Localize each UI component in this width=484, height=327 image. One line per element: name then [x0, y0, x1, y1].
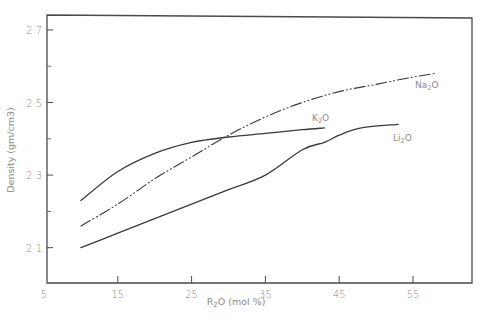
series-labels: K2ONa2OLi2O: [312, 80, 438, 145]
plot-frame: [47, 15, 472, 283]
x-tick-label: 55: [407, 289, 420, 300]
y-tick-label: 2·7: [26, 25, 42, 36]
series-label-na2o: Na2O: [415, 80, 438, 92]
y-axis-ticks: 2·12·32·52·7: [26, 25, 53, 254]
density-chart: 2·12·32·52·7 51525354555 K2ONa2OLi2O R2O…: [0, 0, 484, 327]
x-tick-label: 5: [41, 289, 47, 300]
series-label-k2o: K2O: [312, 113, 329, 125]
x-tick-label: 45: [333, 289, 346, 300]
series-lines: [81, 74, 435, 248]
x-axis-title: R2O (mol %): [207, 296, 266, 309]
series-line-li2o: [81, 124, 398, 247]
x-tick-label: 25: [185, 289, 198, 300]
series-label-li2o: Li2O: [393, 133, 412, 145]
series-line-na2o: [81, 74, 435, 226]
y-tick-label: 2·3: [26, 170, 42, 181]
x-tick-label: 15: [111, 289, 124, 300]
series-line-k2o: [81, 128, 325, 201]
y-tick-label: 2·1: [26, 243, 42, 254]
y-axis-title: Density (gm/cm3): [5, 107, 16, 193]
y-tick-label: 2·5: [26, 98, 42, 109]
